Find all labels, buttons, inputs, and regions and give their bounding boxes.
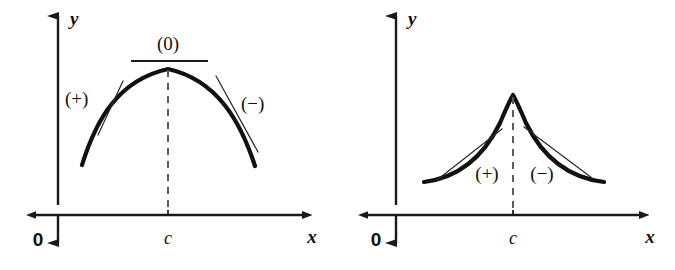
figure-root: (+) (−) (0) y x 0 c <box>0 0 675 270</box>
label-slope-zero-at-peak: (0) <box>157 33 179 55</box>
label-sign-positive-left: (+) <box>475 163 498 185</box>
panel-smooth-maximum: (+) (−) (0) y x 0 c <box>33 8 318 250</box>
label-critical-point-c: c <box>509 228 517 248</box>
label-origin: 0 <box>371 229 382 250</box>
label-sign-negative-right: (−) <box>530 163 553 185</box>
label-sign-positive-left: (+) <box>65 88 88 110</box>
label-critical-point-c: c <box>164 228 172 248</box>
label-x-axis: x <box>306 226 317 247</box>
label-origin: 0 <box>33 229 44 250</box>
label-sign-negative-right: (−) <box>241 93 264 115</box>
label-y-axis: y <box>68 8 79 29</box>
tangent-right-branch <box>216 76 258 152</box>
label-x-axis: x <box>644 226 655 247</box>
tangent-left-branch <box>98 81 123 135</box>
label-y-axis: y <box>406 8 417 29</box>
panel-cusp-maximum: (+) (−) y x 0 c <box>368 8 655 250</box>
derivative-sign-figure: (+) (−) (0) y x 0 c <box>0 0 675 270</box>
